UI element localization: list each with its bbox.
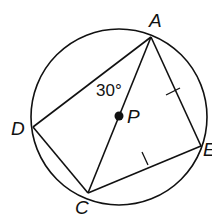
center-point-P bbox=[115, 112, 124, 121]
geometry-diagram: A D C E P 30° bbox=[0, 0, 212, 219]
label-P: P bbox=[127, 106, 140, 127]
label-C: C bbox=[75, 197, 89, 218]
tick-mark-CE bbox=[142, 152, 148, 165]
label-D: D bbox=[11, 118, 25, 139]
segment-EA bbox=[151, 37, 201, 146]
label-A: A bbox=[148, 10, 162, 31]
angle-label: 30° bbox=[96, 81, 122, 100]
label-E: E bbox=[203, 139, 212, 160]
